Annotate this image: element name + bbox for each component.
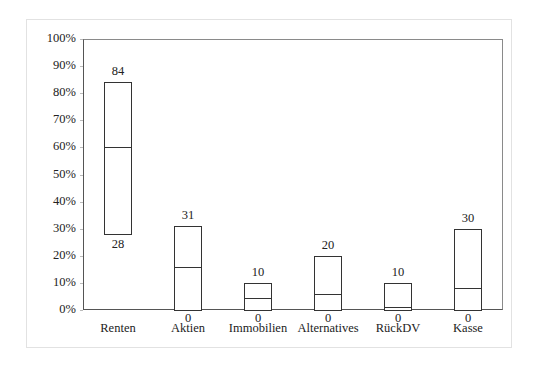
- current-value-line: [315, 294, 341, 295]
- y-tick-mark: [80, 175, 83, 176]
- y-tick-label: 0%: [36, 302, 76, 316]
- y-tick-label: 10%: [36, 275, 76, 289]
- max-value-label: 20: [308, 238, 348, 252]
- y-tick-mark: [80, 283, 83, 284]
- y-tick-label: 80%: [36, 85, 76, 99]
- current-value-line: [175, 267, 201, 268]
- y-tick-label: 100%: [36, 31, 76, 45]
- y-tick-mark: [80, 310, 83, 311]
- current-value-line: [105, 147, 131, 148]
- plot-area: [83, 39, 503, 310]
- y-tick-mark: [80, 93, 83, 94]
- y-tick-mark: [80, 39, 83, 40]
- x-category-label: Kasse: [423, 321, 513, 335]
- y-tick-label: 90%: [36, 58, 76, 72]
- y-tick-label: 70%: [36, 112, 76, 126]
- y-tick-label: 40%: [36, 194, 76, 208]
- range-bar: [104, 82, 132, 235]
- y-tick-label: 20%: [36, 248, 76, 262]
- max-value-label: 31: [168, 208, 208, 222]
- y-tick-label: 50%: [36, 167, 76, 181]
- range-bar: [244, 283, 272, 311]
- max-value-label: 10: [378, 265, 418, 279]
- range-bar: [174, 226, 202, 311]
- max-value-label: 30: [448, 211, 488, 225]
- y-tick-mark: [80, 202, 83, 203]
- range-bar: [384, 283, 412, 311]
- y-tick-mark: [80, 66, 83, 67]
- current-value-line: [385, 307, 411, 308]
- max-value-label: 10: [238, 265, 278, 279]
- y-tick-mark: [80, 120, 83, 121]
- min-value-label: 28: [98, 237, 138, 251]
- y-tick-mark: [80, 147, 83, 148]
- range-bar: [314, 256, 342, 311]
- y-tick-mark: [80, 229, 83, 230]
- y-tick-label: 30%: [36, 221, 76, 235]
- range-bar: [454, 229, 482, 311]
- y-tick-label: 60%: [36, 139, 76, 153]
- y-tick-mark: [80, 256, 83, 257]
- current-value-line: [245, 298, 271, 299]
- max-value-label: 84: [98, 64, 138, 78]
- current-value-line: [455, 288, 481, 289]
